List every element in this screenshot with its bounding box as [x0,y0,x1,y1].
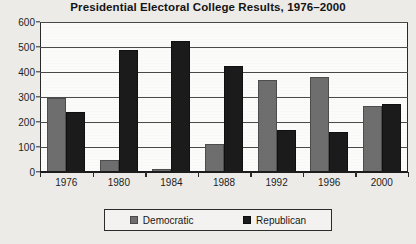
bar-group-1976 [40,22,93,172]
chart-title: Presidential Electoral College Results, … [0,1,416,13]
y-tick-label-400: 400 [4,67,35,78]
y-tick-label-100: 100 [4,142,35,153]
bar-group-1980 [93,22,146,172]
x-tick-label-1988: 1988 [198,177,251,188]
bar-group-1992 [250,22,303,172]
legend-item-democratic: Democratic [130,215,194,226]
y-tick-label-300: 300 [4,92,35,103]
y-tick-label-200: 200 [4,117,35,128]
bar-republican-1980 [119,50,138,172]
legend-swatch-republican [243,216,251,224]
x-tick-label-1996: 1996 [303,177,356,188]
bar-republican-1984 [171,41,190,172]
legend-label-democratic: Democratic [143,215,194,226]
bar-group-1984 [145,22,198,172]
chart-container: Presidential Electoral College Results, … [0,0,416,244]
x-axis-labels: 1976198019841988199219962000 [40,177,408,188]
bar-group-1996 [303,22,356,172]
bar-republican-2000 [382,104,401,172]
legend-item-republican: Republican [243,215,306,226]
chart-legend: Democratic Republican [104,209,332,231]
bar-republican-1996 [329,132,348,172]
bar-democratic-1976 [47,98,66,172]
x-tick-label-1992: 1992 [250,177,303,188]
y-tick-label-500: 500 [4,42,35,53]
plot-wrapper: 0100200300400500600 [40,22,408,172]
y-tick-label-600: 600 [4,17,35,28]
bar-groups [40,22,408,172]
bar-republican-1992 [277,130,296,172]
bar-group-2000 [355,22,408,172]
x-tick-label-1976: 1976 [40,177,93,188]
x-tick-label-1980: 1980 [93,177,146,188]
bar-republican-1976 [66,112,85,172]
x-tick-label-2000: 2000 [355,177,408,188]
bar-democratic-1996 [310,77,329,172]
bar-democratic-2000 [363,106,382,173]
x-tick-label-1984: 1984 [145,177,198,188]
legend-label-republican: Republican [256,215,306,226]
bar-group-1988 [198,22,251,172]
y-tick-label-0: 0 [4,167,35,178]
legend-swatch-democratic [130,216,138,224]
x-tick-7 [408,172,409,177]
bar-republican-1988 [224,66,243,173]
bar-democratic-1988 [205,144,224,172]
bar-democratic-1992 [258,80,277,173]
